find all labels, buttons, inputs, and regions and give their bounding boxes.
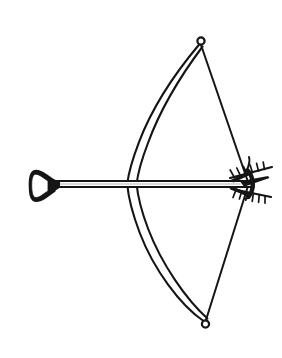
illustration-canvas: Bow and arrow	[0, 0, 282, 358]
bow-and-arrow-drawing	[0, 0, 282, 358]
fletching-lower-barb-5	[259, 195, 260, 203]
nock-ring-bottom-icon	[202, 320, 209, 327]
arrow-shaft-group	[54, 181, 254, 187]
nock-ring-top-icon	[197, 37, 204, 44]
